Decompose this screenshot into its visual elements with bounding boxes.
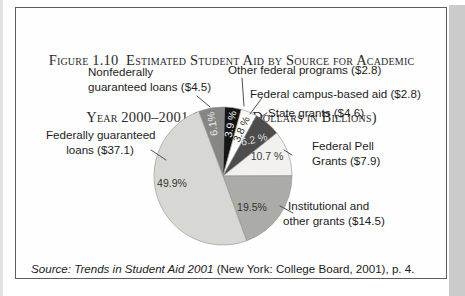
callout-campus-based-aid: Federal campus-based aid ($2.8)	[250, 86, 421, 101]
callout-nonfederal-loans: Nonfederally guaranteed loans ($4.5)	[88, 64, 211, 94]
callout-state-grants: State grants ($4.6)	[268, 105, 364, 120]
callout-federal-loans-line2: loans ($37.1)	[46, 142, 154, 157]
callout-institutional-grants-line1: Institutional and	[283, 198, 385, 213]
leader-line-nonfederal-loans	[197, 96, 210, 107]
leader-line-other-federal	[242, 78, 244, 106]
source-line-italic: Source: Trends in Student Aid 2001	[31, 262, 213, 275]
source-line-rest: (New York: College Board, 2001), p. 4.	[213, 262, 414, 275]
callout-pell-grants-line1: Federal Pell	[312, 138, 380, 153]
source-line: Source: Trends in Student Aid 2001 (New …	[31, 262, 414, 275]
callout-other-federal-line1: Other federal programs ($2.8)	[228, 62, 381, 77]
callout-other-federal: Other federal programs ($2.8)	[228, 62, 381, 77]
callout-institutional-grants: Institutional and other grants ($14.5)	[283, 198, 385, 228]
callout-campus-based-aid-line1: Federal campus-based aid ($2.8)	[250, 86, 421, 101]
callout-pell-grants-line2: Grants ($7.9)	[312, 153, 380, 168]
callout-state-grants-line1: State grants ($4.6)	[268, 105, 364, 120]
callout-federal-loans: Federally guaranteed loans ($37.1)	[46, 127, 154, 157]
percent-label-federal-loans: 49.9%	[157, 177, 187, 189]
callout-institutional-grants-line2: other grants ($14.5)	[283, 213, 385, 228]
percent-label-pell-grants: 10.7 %	[251, 150, 284, 162]
callout-nonfederal-loans-line1: Nonfederally	[88, 64, 211, 79]
callout-pell-grants: Federal Pell Grants ($7.9)	[312, 138, 380, 168]
callout-nonfederal-loans-line2: guaranteed loans ($4.5)	[88, 79, 211, 94]
callout-federal-loans-line1: Federally guaranteed	[46, 127, 154, 142]
percent-label-institutional-grants: 19.5%	[237, 201, 267, 213]
